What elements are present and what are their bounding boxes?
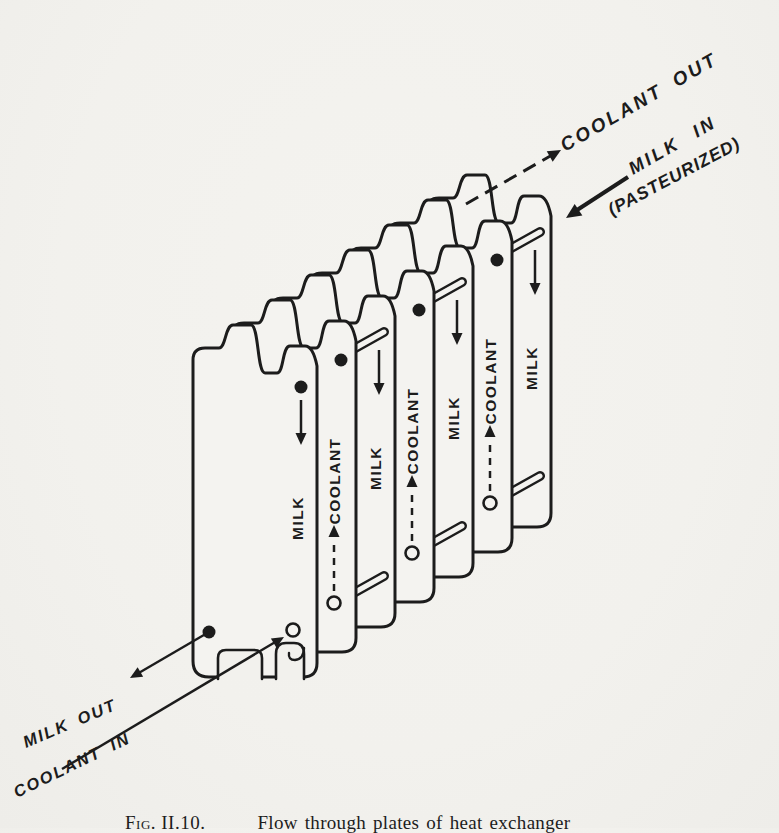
coolant-port-circle	[484, 497, 497, 510]
plate-label-coolant: COOLANT	[404, 387, 421, 474]
milk-port-dot	[335, 354, 348, 367]
coolant-in-port-circle	[287, 624, 300, 637]
milk-port-dot	[413, 304, 426, 317]
coolant-port-circle	[328, 597, 341, 610]
plate-label-milk: MILK	[523, 346, 540, 390]
milk-port-dot	[295, 381, 308, 394]
plate-label-coolant: COOLANT	[482, 337, 499, 424]
coolant-port-circle	[406, 547, 419, 560]
plate-label-milk: MILK	[445, 396, 462, 440]
figure-caption: Fig. II.10.Flow through plates of heat e…	[125, 813, 765, 832]
bottom-hook-notch	[276, 643, 304, 679]
milk-port-dot	[491, 254, 504, 267]
plate-label-coolant: COOLANT	[326, 437, 343, 524]
plate-label-milk: MILK	[367, 446, 384, 490]
plate-1-milk: MILK	[193, 325, 317, 679]
figure-number: Fig. II.10.	[125, 813, 205, 832]
figure-caption-text: Flow through plates of heat exchanger	[257, 812, 570, 833]
plate-label-milk: MILK	[289, 496, 306, 540]
